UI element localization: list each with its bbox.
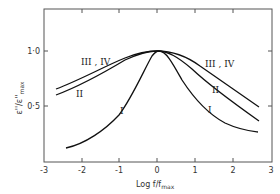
y-tick-1: 1·0 — [27, 47, 40, 56]
label-I-left: I — [120, 106, 124, 116]
label-II-left: II — [76, 89, 84, 99]
x-tick-3: 3 — [268, 166, 273, 175]
x-tick-m1: -1 — [115, 166, 123, 175]
x-tick-m3: -3 — [40, 166, 48, 175]
label-III-IV-right: III , IV — [205, 59, 235, 69]
x-tick-2: 2 — [230, 166, 235, 175]
y-tick-05: 0·5 — [27, 102, 40, 111]
chart: 1·0 0·5 -3 -2 -1 0 1 2 3 Log f/fmax ε''/… — [0, 0, 280, 194]
x-tick-1: 1 — [192, 166, 197, 175]
y-axis-title: ε''/ε''max — [15, 81, 25, 115]
label-I-right: I — [208, 105, 212, 115]
x-tick-m2: -2 — [78, 166, 86, 175]
label-III-IV-left: III , IV — [81, 57, 111, 67]
x-axis-title: Log f/fmax — [136, 180, 175, 190]
label-II-right: II — [212, 85, 220, 95]
x-tick-0: 0 — [154, 166, 159, 175]
